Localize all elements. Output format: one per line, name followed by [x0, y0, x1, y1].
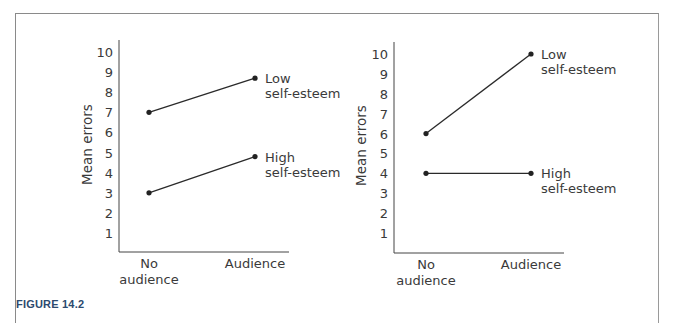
chart-left-y-tick-label: 10: [96, 45, 113, 60]
chart-right-data-point: [423, 171, 428, 176]
chart-right-x-category-label: audience: [396, 273, 455, 288]
chart-left-data-point: [252, 76, 257, 81]
chart-right-y-tick-label: 5: [380, 146, 388, 161]
chart-right-y-tick-label: 3: [380, 186, 388, 201]
chart-left-y-axis-title: Mean errors: [79, 104, 95, 185]
chart-right-data-point: [528, 51, 533, 56]
chart-right-series-label: Low: [541, 47, 567, 62]
chart-left-y-tick-label: 6: [105, 125, 113, 140]
chart-left-series-line: [149, 157, 255, 193]
chart-left-series-label: self-esteem: [265, 165, 340, 180]
chart-left-x-category-label: No: [140, 256, 158, 271]
chart-left-y-tick-label: 8: [105, 85, 113, 100]
chart-left-data-point: [146, 190, 151, 195]
chart-right-y-tick-label: 8: [380, 87, 388, 102]
chart-right-data-point: [528, 171, 533, 176]
chart-right-data-point: [423, 131, 428, 136]
chart-right-y-tick-label: 7: [380, 107, 388, 122]
chart-left-y-tick-label: 4: [105, 166, 113, 181]
chart-right-y-tick-label: 4: [380, 166, 388, 181]
chart-right-y-tick-label: 10: [371, 47, 388, 62]
chart-right-y-axis-title: Mean errors: [353, 105, 369, 186]
chart-right-y-tick-label: 6: [380, 127, 388, 142]
chart-right-y-tick-label: 2: [380, 206, 388, 221]
chart-left-x-category-label: Audience: [225, 256, 285, 271]
chart-right-y-tick-label: 9: [380, 67, 388, 82]
chart-right-x-category-label: No: [417, 257, 435, 272]
chart-left-y-tick-label: 7: [105, 105, 113, 120]
chart-left-series-label: High: [265, 150, 295, 165]
chart-right-series-label: High: [541, 166, 571, 181]
figure-caption: FIGURE 14.2: [16, 298, 84, 310]
chart-right-series-line: [426, 54, 531, 134]
chart-left-series-label: Low: [265, 71, 291, 86]
chart-right-series-label: self-esteem: [541, 62, 616, 77]
chart-left-series-line: [149, 78, 255, 112]
chart-left-series-label: self-esteem: [265, 86, 340, 101]
chart-left-data-point: [252, 154, 257, 159]
chart-left-y-tick-label: 1: [105, 226, 113, 241]
chart-right-x-category-label: Audience: [501, 257, 561, 272]
chart-left-x-category-label: audience: [119, 272, 178, 287]
chart-left-y-tick-label: 9: [105, 65, 113, 80]
chart-right-y-tick-label: 1: [380, 226, 388, 241]
chart-left-data-point: [146, 110, 151, 115]
chart-left-y-tick-label: 2: [105, 206, 113, 221]
chart-left-y-tick-label: 5: [105, 146, 113, 161]
chart-right-series-label: self-esteem: [541, 181, 616, 196]
chart-left-y-tick-label: 3: [105, 186, 113, 201]
